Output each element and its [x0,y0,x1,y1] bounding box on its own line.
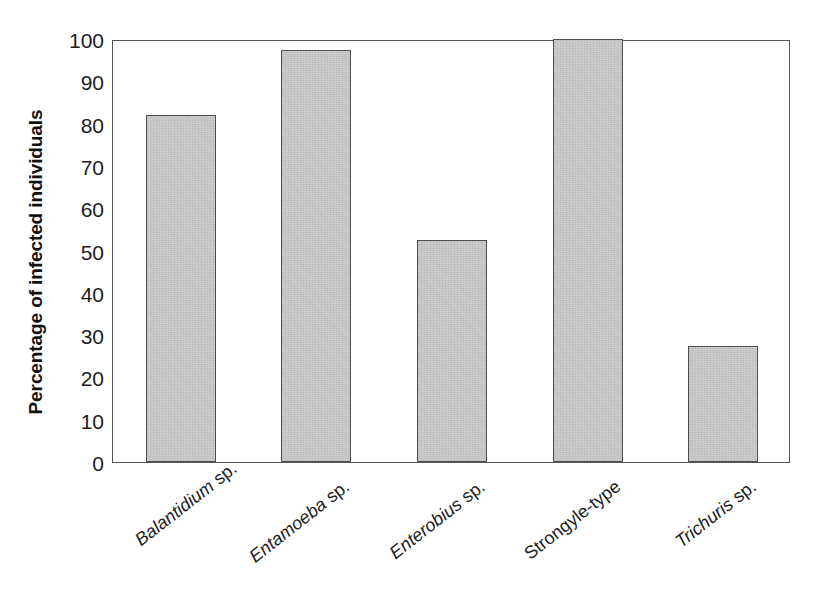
bar [553,39,623,462]
bar [146,115,216,462]
x-axis-tick-label-genus: Balantidium [131,476,217,550]
bar [281,50,351,462]
y-axis-tick-label: 80 [52,114,104,135]
y-axis-tick-label: 100 [52,30,104,51]
y-axis-tick-label: 0 [52,453,104,474]
y-axis-tick-label: 10 [52,410,104,431]
bars-layer [113,41,789,462]
y-axis-tick-label: 60 [52,199,104,220]
x-axis-tick-label-genus: Entamoeba [245,494,330,566]
y-axis-tick-label-group: 0102030405060708090100 [52,40,104,463]
x-axis-tick-label-group: Balantidium sp.Entamoeba sp.Enterobius s… [112,463,790,603]
y-axis-tick-label: 50 [52,241,104,262]
x-axis-tick-label: Balantidium sp. [132,477,217,549]
y-axis-tick-label: 30 [52,326,104,347]
bar [688,346,758,462]
x-axis-tick-label-genus: Strongyle-type [521,476,625,563]
y-axis-tick-label: 40 [52,283,104,304]
bar [417,240,487,462]
y-axis-tick-label: 90 [52,72,104,93]
x-axis-tick-label-genus: Enterobius [386,494,466,563]
y-axis-tick-label: 70 [52,156,104,177]
plot-area [112,40,790,463]
y-axis-tick-label: 20 [52,368,104,389]
x-axis-tick-label-genus: Trichuris [671,494,737,551]
bar-chart-figure: Percentage of infected individuals 01020… [0,0,818,604]
